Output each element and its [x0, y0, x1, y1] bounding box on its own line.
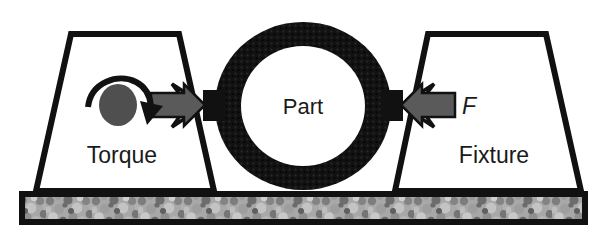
force-label: F [462, 93, 478, 119]
fixture-label: Fixture [459, 142, 529, 168]
ground-base [22, 194, 585, 222]
part-label: Part [283, 94, 323, 119]
torque-label: Torque [87, 142, 157, 168]
base-block [22, 194, 585, 222]
schematic-svg: Part Torque Fixture F [0, 0, 608, 241]
torque-shaft-disc [99, 84, 137, 126]
figure-canvas: Part Torque Fixture F [0, 0, 608, 241]
